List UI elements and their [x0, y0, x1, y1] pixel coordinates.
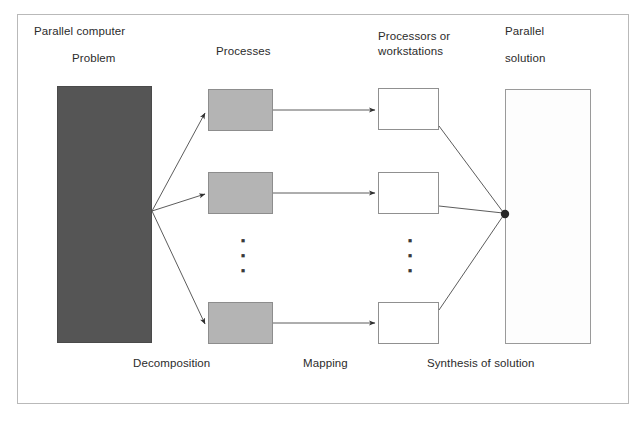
label-parallel-line1: Parallel	[505, 24, 544, 38]
label-processes: Processes	[216, 44, 271, 58]
label-parallel-line2: solution	[505, 51, 545, 65]
ellipsis-processes: ▪ ▪ ▪	[238, 233, 248, 278]
label-processors-line2: workstations	[378, 44, 443, 58]
label-decomposition: Decomposition	[133, 356, 210, 370]
processor-box-2	[378, 172, 439, 214]
ellipsis-processors: ▪ ▪ ▪	[405, 233, 415, 278]
ellipsis-dot: ▪	[405, 233, 415, 248]
ellipsis-dot: ▪	[405, 248, 415, 263]
parallel-solution-box	[505, 89, 591, 344]
process-box-2	[208, 172, 273, 214]
label-problem: Problem	[72, 51, 116, 65]
problem-box	[57, 86, 152, 343]
label-processors-line1: Processors or	[378, 29, 450, 43]
ellipsis-dot: ▪	[238, 248, 248, 263]
processor-box-n	[378, 302, 439, 344]
process-box-1	[208, 89, 273, 131]
ellipsis-dot: ▪	[238, 263, 248, 278]
label-mapping: Mapping	[303, 356, 348, 370]
label-parallel-computer: Parallel computer	[34, 24, 125, 38]
processor-box-1	[378, 88, 439, 130]
process-box-n	[208, 302, 273, 344]
ellipsis-dot: ▪	[405, 263, 415, 278]
diagram-canvas: Parallel computer Problem Processes Proc…	[0, 0, 642, 423]
label-synthesis: Synthesis of solution	[427, 356, 535, 370]
ellipsis-dot: ▪	[238, 233, 248, 248]
